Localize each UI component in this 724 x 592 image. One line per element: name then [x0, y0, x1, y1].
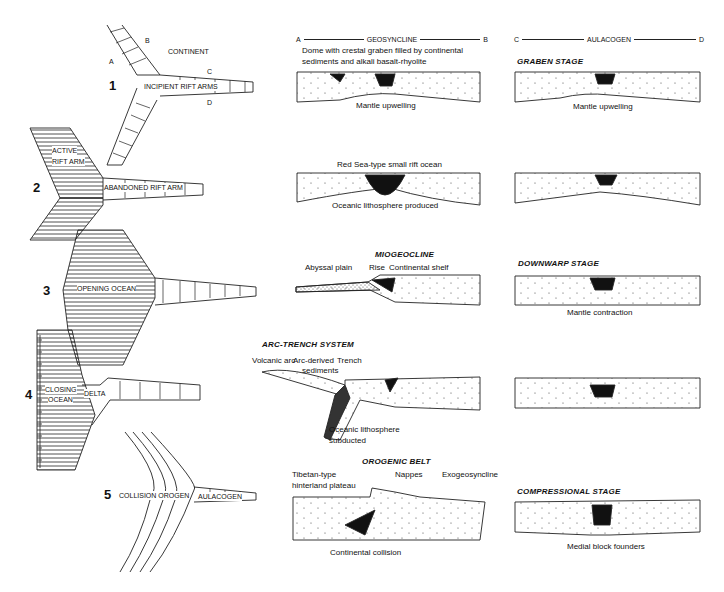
geo-panel-5: [293, 488, 485, 540]
label-b: B: [145, 36, 150, 45]
aul-panel-3: [515, 276, 700, 305]
geo4-arc: Volcanic arc: [252, 356, 295, 365]
label-aulacogen-plan: AULACOGEN: [198, 492, 242, 501]
geo5-nappes: Nappes: [395, 470, 423, 479]
label-closing-1: CLOSING: [45, 385, 77, 394]
axis-a: A: [296, 36, 301, 43]
geo2-caption-top: Red Sea-type small rift ocean: [337, 160, 442, 169]
label-d: D: [207, 98, 212, 107]
geo4-arcsed-2: sediments: [302, 366, 338, 375]
label-c: C: [207, 67, 212, 76]
aul-panel-1: [515, 72, 700, 102]
axis-aulacogen: AULACOGEN: [587, 36, 631, 43]
geo-panel-3: [296, 275, 480, 305]
geo3-title: MIOGEOCLINE: [375, 250, 434, 259]
aul-panel-5: [515, 500, 700, 535]
aulacogen-axis: C AULACOGEN D: [514, 36, 704, 43]
aul5-title: COMPRESSIONAL STAGE: [517, 487, 621, 496]
stage3-number: 3: [43, 283, 50, 298]
geo4-sub-2: subducted: [329, 436, 366, 445]
geo2-caption-bottom: Oceanic lithosphere produced: [332, 201, 438, 210]
geo1-caption-1: Dome with crestal graben filled by conti…: [302, 46, 463, 55]
axis-d: D: [699, 36, 704, 43]
label-incipient: INCIPIENT RIFT ARMS: [144, 82, 218, 91]
geo-panel-1: [297, 72, 480, 102]
label-a: A: [109, 57, 114, 66]
label-abandoned: ABANDONED RIFT ARM: [104, 183, 183, 192]
label-continent: CONTINENT: [168, 47, 209, 56]
geo4-sub-1: Oceanic lithosphere: [329, 425, 400, 434]
aul3-caption-bottom: Mantle contraction: [567, 308, 632, 317]
geo4-arcsed-1: Arc-derived: [293, 356, 334, 365]
stage1-plan: [107, 25, 253, 165]
stage4-number: 4: [25, 387, 32, 402]
stage3-plan: [63, 230, 256, 365]
aul3-title: DOWNWARP STAGE: [518, 259, 599, 268]
aul1-title: GRABEN STAGE: [517, 57, 583, 66]
label-closing-2: OCEAN: [48, 395, 73, 404]
stage5-plan: [120, 432, 256, 572]
label-delta: DELTA: [84, 389, 106, 398]
axis-c: C: [514, 36, 519, 43]
axis-geosyncline: GEOSYNCLINE: [367, 36, 418, 43]
geo5-exo: Exogeosyncline: [442, 470, 498, 479]
stage1-number: 1: [109, 78, 116, 93]
label-active-2: RIFT ARM: [52, 157, 85, 166]
geo4-title: ARC-TRENCH SYSTEM: [262, 340, 354, 349]
geo1-caption-bottom: Mantle upwelling: [356, 101, 416, 110]
label-collision: COLLISION OROGEN: [119, 491, 189, 500]
aul1-caption-bottom: Mantle upwelling: [573, 102, 633, 111]
geo3-shelf: Continental shelf: [389, 263, 449, 272]
label-opening: OPENING OCEAN: [77, 284, 136, 293]
axis-b: B: [483, 36, 488, 43]
aul-panel-4: [515, 378, 700, 408]
stage2-number: 2: [33, 180, 40, 195]
geosyncline-axis: A GEOSYNCLINE B: [296, 36, 488, 43]
geo5-caption-bottom: Continental collision: [330, 548, 401, 557]
geo5-tibet-1: Tibetan-type: [292, 470, 336, 479]
stage5-number: 5: [104, 487, 111, 502]
label-active-1: ACTIVE: [52, 146, 77, 155]
geo1-caption-2: sediments and alkali basalt-rhyolite: [302, 57, 427, 66]
aul-panel-2: [515, 173, 700, 205]
geo5-title: OROGENIC BELT: [362, 457, 431, 466]
geo5-tibet-2: hinterland plateau: [292, 481, 356, 490]
aul5-caption-bottom: Medial block founders: [567, 542, 645, 551]
geo3-abyssal: Abyssal plain: [305, 263, 352, 272]
geo3-rise: Rise: [369, 263, 385, 272]
geo4-trench: Trench: [337, 356, 362, 365]
